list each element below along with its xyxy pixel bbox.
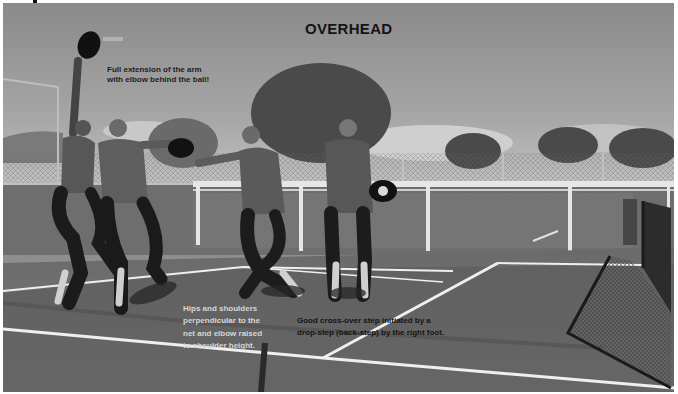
caption-line: to shoulder height. xyxy=(183,340,262,352)
caption-cross-over-step: Good cross-over step initiated by a drop… xyxy=(297,315,444,339)
caption-line: Full extension of the arm xyxy=(107,65,209,75)
paddle xyxy=(168,138,194,158)
caption-arm-extension: Full extension of the arm with elbow beh… xyxy=(107,65,209,85)
title-overhead: OVERHEAD xyxy=(305,20,392,37)
caption-line: perpendicular to the xyxy=(183,315,262,327)
overhead-photo: OVERHEAD Full extension of the arm with … xyxy=(3,3,674,392)
caption-line: with elbow behind the ball! xyxy=(107,75,209,85)
caption-line: drop-step (back-step) by the right foot. xyxy=(297,327,444,339)
caption-line: Hips and shoulders xyxy=(183,303,262,315)
caption-hips-shoulders: Hips and shoulders perpendicular to the … xyxy=(183,303,262,353)
caption-line: net and elbow raised xyxy=(183,328,262,340)
caption-line: Good cross-over step initiated by a xyxy=(297,315,444,327)
